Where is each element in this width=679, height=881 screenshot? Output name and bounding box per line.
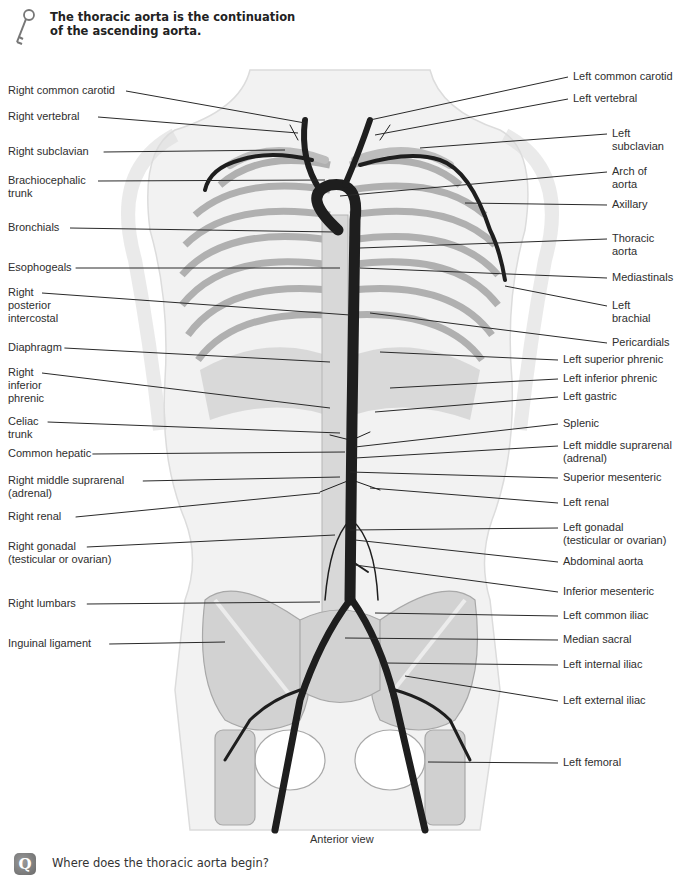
label-line: Esophogeals: [8, 261, 72, 274]
label-line: posterior: [8, 299, 58, 312]
label-line: Right middle suprarenal: [8, 474, 124, 487]
label-right-1: Left vertebral: [573, 92, 637, 105]
label-line: intercostal: [8, 312, 58, 325]
label-line: aorta: [612, 245, 654, 258]
label-line: Inguinal ligament: [8, 637, 91, 650]
label-line: Right common carotid: [8, 84, 115, 97]
label-line: (adrenal): [8, 487, 124, 500]
label-right-0: Left common carotid: [573, 70, 673, 83]
label-line: trunk: [8, 428, 39, 441]
label-right-5: Thoracicaorta: [612, 232, 654, 258]
label-line: Splenic: [563, 417, 599, 430]
label-right-13: Left middle suprarenal(adrenal): [563, 439, 672, 465]
label-line: Common hepatic: [8, 447, 91, 460]
label-line: Mediastinals: [612, 271, 673, 284]
label-right-4: Axillary: [612, 198, 647, 211]
label-line: Right: [8, 286, 58, 299]
label-line: Left femoral: [563, 756, 621, 769]
label-left-15: Inguinal ligament: [8, 637, 91, 650]
label-left-7: Diaphragm: [8, 341, 62, 354]
label-line: Left renal: [563, 496, 609, 509]
label-right-3: Arch ofaorta: [612, 165, 647, 191]
label-line: Thoracic: [612, 232, 654, 245]
question-text: Where does the thoracic aorta begin?: [52, 856, 269, 870]
label-line: Right renal: [8, 510, 61, 523]
label-right-10: Left inferior phrenic: [563, 372, 657, 385]
label-line: Diaphragm: [8, 341, 62, 354]
label-right-18: Inferior mesenteric: [563, 585, 654, 598]
label-right-2: Leftsubclavian: [612, 127, 664, 153]
label-line: Left common carotid: [573, 70, 673, 83]
label-line: Abdominal aorta: [563, 555, 643, 568]
label-line: Superior mesenteric: [563, 471, 661, 484]
label-right-9: Left superior phrenic: [563, 353, 663, 366]
label-right-19: Left common iliac: [563, 609, 649, 622]
label-left-10: Common hepatic: [8, 447, 91, 460]
label-left-13: Right gonadal(testicular or ovarian): [8, 540, 111, 566]
label-right-7: Leftbrachial: [612, 299, 651, 325]
label-line: Pericardials: [612, 336, 669, 349]
label-line: (testicular or ovarian): [563, 534, 666, 547]
label-right-14: Superior mesenteric: [563, 471, 661, 484]
label-left-6: Rightposteriorintercostal: [8, 286, 58, 325]
label-line: Right vertebral: [8, 110, 80, 123]
label-left-1: Right vertebral: [8, 110, 80, 123]
label-line: Left: [612, 299, 651, 312]
label-line: Left inferior phrenic: [563, 372, 657, 385]
label-left-2: Right subclavian: [8, 145, 89, 158]
label-line: trunk: [8, 187, 86, 200]
label-left-11: Right middle suprarenal(adrenal): [8, 474, 124, 500]
label-right-6: Mediastinals: [612, 271, 673, 284]
label-line: Left: [612, 127, 664, 140]
label-line: Right: [8, 366, 44, 379]
label-line: Right gonadal: [8, 540, 111, 553]
label-line: Bronchials: [8, 221, 59, 234]
label-line: Celiac: [8, 415, 39, 428]
label-left-0: Right common carotid: [8, 84, 115, 97]
leader-line: [505, 286, 607, 306]
label-right-16: Left gonadal(testicular or ovarian): [563, 521, 666, 547]
label-line: Right subclavian: [8, 145, 89, 158]
label-line: Right lumbars: [8, 597, 76, 610]
label-line: aorta: [612, 178, 647, 191]
label-line: inferior: [8, 379, 44, 392]
label-line: (testicular or ovarian): [8, 553, 111, 566]
label-line: subclavian: [612, 140, 664, 153]
label-left-12: Right renal: [8, 510, 61, 523]
label-line: Inferior mesenteric: [563, 585, 654, 598]
figure-caption: Anterior view: [310, 833, 374, 845]
label-line: phrenic: [8, 392, 44, 405]
label-line: Left internal iliac: [563, 658, 643, 671]
label-left-14: Right lumbars: [8, 597, 76, 610]
label-right-22: Left external iliac: [563, 694, 646, 707]
label-line: Left superior phrenic: [563, 353, 663, 366]
label-left-3: Brachiocephalictrunk: [8, 174, 86, 200]
label-right-11: Left gastric: [563, 390, 617, 403]
label-right-17: Abdominal aorta: [563, 555, 643, 568]
label-line: brachial: [612, 312, 651, 325]
label-line: Axillary: [612, 198, 647, 211]
label-left-4: Bronchials: [8, 221, 59, 234]
label-line: Left gonadal: [563, 521, 666, 534]
label-line: Left common iliac: [563, 609, 649, 622]
label-left-9: Celiactrunk: [8, 415, 39, 441]
label-line: Left middle suprarenal: [563, 439, 672, 452]
label-right-23: Left femoral: [563, 756, 621, 769]
label-right-20: Median sacral: [563, 633, 631, 646]
label-left-8: Rightinferiorphrenic: [8, 366, 44, 405]
label-right-21: Left internal iliac: [563, 658, 643, 671]
question-badge-icon: Q: [14, 853, 36, 875]
label-line: Brachiocephalic: [8, 174, 86, 187]
label-line: (adrenal): [563, 452, 672, 465]
label-line: Arch of: [612, 165, 647, 178]
label-line: Left external iliac: [563, 694, 646, 707]
label-right-8: Pericardials: [612, 336, 669, 349]
label-right-12: Splenic: [563, 417, 599, 430]
label-line: Left vertebral: [573, 92, 637, 105]
label-left-5: Esophogeals: [8, 261, 72, 274]
label-line: Median sacral: [563, 633, 631, 646]
label-line: Left gastric: [563, 390, 617, 403]
spine: [322, 215, 348, 635]
label-right-15: Left renal: [563, 496, 609, 509]
